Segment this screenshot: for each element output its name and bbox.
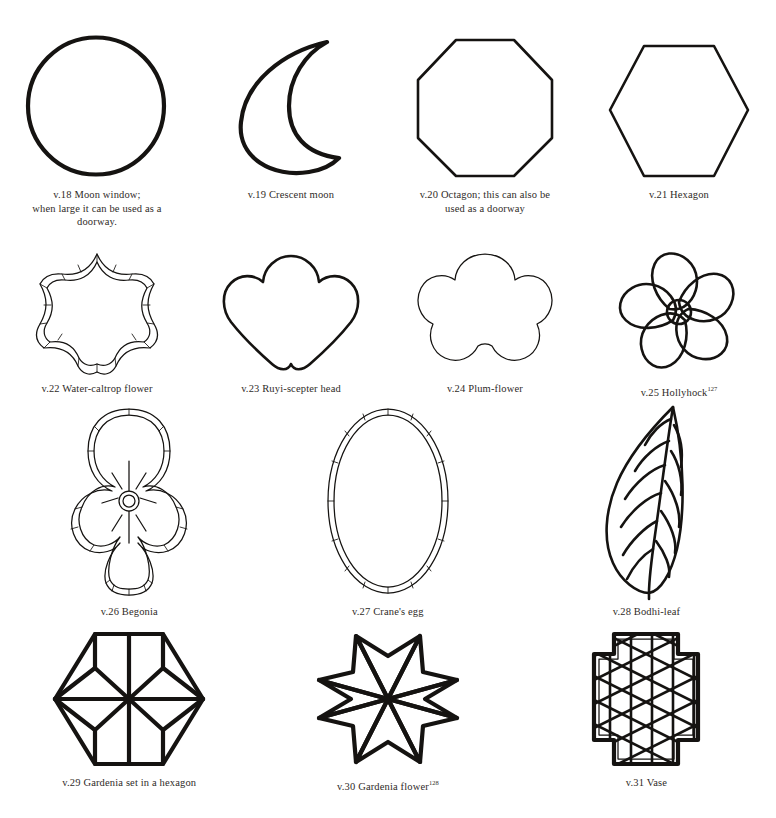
figure-v19[interactable]: v.19 Crescent moon <box>194 22 388 252</box>
six-point-star-shape <box>313 628 463 770</box>
figure-caption: v.30 Gardenia flower128 <box>259 776 518 793</box>
hexagon-shape-art <box>604 22 754 182</box>
figure-v26[interactable]: v.26 Begonia <box>0 404 259 626</box>
figure-caption: v.20 Octagon; this can also be used as a… <box>388 188 582 215</box>
figure-caption: v.31 Vase <box>517 776 776 790</box>
hollyhock-pinwheel-shape-art <box>606 246 752 376</box>
figure-row-2: v.22 Water-caltrop flower v.23 Ruyi-scep… <box>0 246 776 406</box>
begonia-quatrefoil-shape-art <box>64 404 194 599</box>
octagon-shape-art <box>412 22 558 182</box>
figure-v18[interactable]: v.18 Moon window; when large it can be u… <box>0 22 194 252</box>
oval-shape-art <box>323 404 453 599</box>
figure-v20[interactable]: v.20 Octagon; this can also be used as a… <box>388 22 582 252</box>
figure-v29[interactable]: v.29 Gardenia set in a hexagon <box>0 628 259 798</box>
figure-v27[interactable]: v.27 Crane's egg <box>259 404 518 626</box>
six-point-star-shape-art <box>313 628 463 770</box>
figure-caption: v.24 Plum-flower <box>388 382 582 396</box>
ruyi-scepter-head-shape-art <box>218 246 364 376</box>
gardenia-hexagon-shape <box>49 628 209 770</box>
octagon-shape <box>412 34 558 182</box>
vase-lattice-shape <box>586 628 706 770</box>
vase-lattice-shape-art <box>586 628 706 770</box>
circle-shape <box>22 30 172 182</box>
hollyhock-pinwheel-shape <box>606 250 752 376</box>
figure-caption: v.25 Hollyhock127 <box>582 382 776 399</box>
figure-v22[interactable]: v.22 Water-caltrop flower <box>0 246 194 406</box>
figure-caption: v.22 Water-caltrop flower <box>0 382 194 396</box>
gardenia-hexagon-shape-art <box>49 628 209 770</box>
figure-caption: v.21 Hexagon <box>582 188 776 202</box>
figure-v24[interactable]: v.24 Plum-flower <box>388 246 582 406</box>
bodhi-leaf-shape-art <box>591 404 701 599</box>
figure-caption: v.29 Gardenia set in a hexagon <box>0 776 259 790</box>
figure-caption: v.27 Crane's egg <box>259 605 518 619</box>
figure-row-4: v.29 Gardenia set in a hexagon <box>0 628 776 798</box>
figure-caption: v.28 Bodhi-leaf <box>517 605 776 619</box>
seven-point-star-shape-art <box>24 246 170 376</box>
figure-row-1: v.18 Moon window; when large it can be u… <box>0 22 776 252</box>
seven-point-star-shape <box>24 250 170 376</box>
caption-text: v.30 Gardenia flower <box>337 781 429 792</box>
bodhi-leaf-shape <box>591 403 701 599</box>
figure-v28[interactable]: v.28 Bodhi-leaf <box>517 404 776 626</box>
caption-footnote: 128 <box>429 779 439 786</box>
figure-row-3: v.26 Begonia <box>0 404 776 626</box>
hexagon-shape <box>604 40 754 182</box>
oval-shape <box>323 403 453 599</box>
plum-flower-shape-art <box>412 246 558 376</box>
figure-v21[interactable]: v.21 Hexagon <box>582 22 776 252</box>
caption-text: v.25 Hollyhock <box>641 387 708 398</box>
figure-caption: v.26 Begonia <box>0 605 259 619</box>
plum-flower-shape <box>412 250 558 376</box>
figure-caption: v.18 Moon window; when large it can be u… <box>0 188 194 229</box>
caption-footnote: 127 <box>708 385 718 392</box>
ruyi-scepter-head-shape <box>218 250 364 376</box>
figure-caption: v.19 Crescent moon <box>194 188 388 202</box>
figure-v25[interactable]: v.25 Hollyhock127 <box>582 246 776 406</box>
begonia-quatrefoil-shape <box>64 403 194 599</box>
lattice-plate: v.18 Moon window; when large it can be u… <box>0 0 776 818</box>
crescent-moon-shape-art <box>231 22 351 182</box>
figure-v30[interactable]: v.30 Gardenia flower128 <box>259 628 518 798</box>
figure-v31[interactable]: v.31 Vase <box>517 628 776 798</box>
crescent-moon-shape <box>231 30 351 182</box>
circle-shape-art <box>22 22 172 182</box>
figure-caption: v.23 Ruyi-scepter head <box>194 382 388 396</box>
figure-v23[interactable]: v.23 Ruyi-scepter head <box>194 246 388 406</box>
